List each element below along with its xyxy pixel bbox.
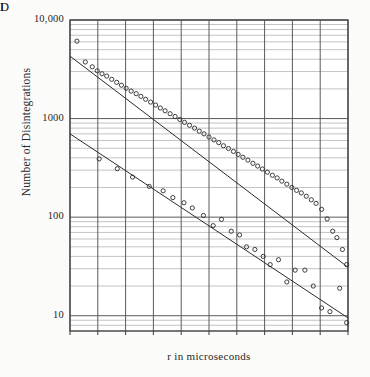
figure-container: Number of Disintegrations r in microseco… xyxy=(0,0,370,377)
semilog-decay-plot xyxy=(0,0,370,377)
y-tick-10000: 10,000 xyxy=(6,13,64,24)
y-tick-1000: 1000 xyxy=(6,112,64,123)
y-tick-100: 100 xyxy=(6,210,64,221)
x-axis-title: r in microseconds xyxy=(70,350,348,362)
curve-label-lower: D xyxy=(0,0,9,15)
y-tick-10: 10 xyxy=(6,309,64,320)
y-axis-title: Number of Disintegrations xyxy=(20,52,32,212)
